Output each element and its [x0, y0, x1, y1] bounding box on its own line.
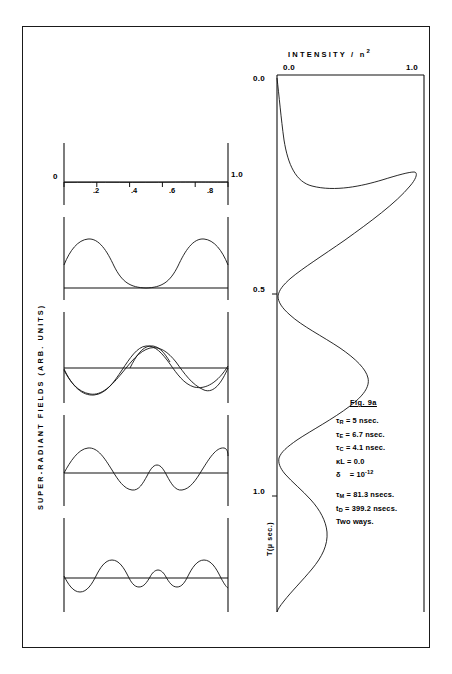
legend-row-4: δ = 10-12 [336, 467, 397, 480]
legend-row-3-value: 0.0 [354, 457, 365, 466]
legend-row-1-subscript: E [339, 433, 343, 439]
field-panel-4 [64, 448, 228, 490]
legend-spacer [336, 480, 397, 489]
legend-row2-0: τM = 81.3 nsecs. [336, 489, 397, 502]
legend-row-1-equals: = [346, 430, 350, 439]
field-curve-4 [64, 448, 228, 490]
legend-row2-1-value: 399.2 nsecs. [352, 504, 397, 513]
legend-row-4-value: 10 [357, 470, 366, 479]
field-curve-2 [64, 239, 228, 288]
legend-row2-0-value: 81.3 nsecs. [353, 490, 394, 499]
left-panel-rails [64, 143, 228, 612]
plot-canvas [0, 0, 452, 674]
legend-row-0-subscript: R [339, 419, 343, 425]
intensity-plot-axes [272, 75, 424, 612]
legend-row-4-symbol: δ [336, 470, 341, 479]
legend-row-2-value: 4.1 nsec. [353, 443, 386, 452]
legend-row2-1-subscript: D [339, 507, 343, 513]
legend-row-1-value: 6.7 nsec. [352, 430, 385, 439]
legend-note: Two ways. [336, 516, 397, 527]
intensity-curve-group [277, 78, 416, 612]
legend-row2-1-equals: = [345, 504, 349, 513]
legend-row-0-value: 5 nsec. [353, 416, 379, 425]
legend-row-3-symbol: κL [336, 457, 345, 466]
legend-row-3-equals: = [347, 457, 351, 466]
field-panel-1 [64, 182, 228, 187]
legend-row2-1: tD = 399.2 nsecs. [336, 503, 397, 516]
legend-row-2-subscript: C [339, 446, 343, 452]
legend-row-4-equals: = [350, 470, 354, 479]
field-panel-2 [64, 239, 228, 288]
legend-row2-0-equals: = [346, 490, 350, 499]
legend-row-3: κL = 0.0 [336, 456, 397, 467]
field-panel-5 [64, 560, 228, 592]
legend-row-0: τR = 5 nsec. [336, 415, 397, 428]
field-panel-3 [64, 346, 228, 395]
legend-title: Fig. 9a [350, 397, 397, 408]
field-curve-3a [64, 346, 228, 395]
intensity-curve [277, 78, 416, 612]
legend-block: Fig. 9a τR = 5 nsec. τE = 6.7 nsec. τC =… [336, 397, 397, 528]
field-curve-5 [64, 560, 228, 592]
legend-row2-0-subscript: M [339, 493, 344, 499]
legend-row-1: τE = 6.7 nsec. [336, 429, 397, 442]
figure-root: SUPER-RADIANT FIELDS (ARB. UNITS) INTENS… [0, 0, 452, 674]
legend-row-0-equals: = [346, 416, 350, 425]
legend-row-2-equals: = [346, 443, 350, 452]
legend-row-4-exponent: -12 [365, 469, 374, 475]
legend-row-2: τC = 4.1 nsec. [336, 442, 397, 455]
